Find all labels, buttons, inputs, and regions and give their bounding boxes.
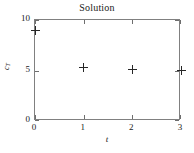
x-tick-mark <box>180 115 181 119</box>
data-point-marker <box>128 65 137 74</box>
x-tick-mark <box>84 115 85 119</box>
y-tick-mark <box>35 71 39 72</box>
y-tick-mark <box>175 20 179 21</box>
x-axis-label: t <box>34 134 180 144</box>
chart-figure: Solution 0123 0510 t cT <box>0 0 194 153</box>
y-axis-label-base: c <box>2 66 11 70</box>
plus-icon-vertical <box>35 26 36 35</box>
chart-title: Solution <box>0 2 194 13</box>
y-tick-mark <box>175 120 179 121</box>
plot-frame <box>34 19 180 120</box>
plus-icon-vertical <box>132 65 133 74</box>
x-tick-mark <box>132 20 133 24</box>
x-tick-mark <box>132 115 133 119</box>
x-tick-mark <box>180 20 181 24</box>
y-tick-mark <box>35 20 39 21</box>
plus-icon-vertical <box>83 63 84 72</box>
x-tick-label: 2 <box>123 122 139 132</box>
x-tick-mark <box>84 20 85 24</box>
plus-icon-vertical <box>181 66 182 75</box>
data-point-marker <box>177 66 186 75</box>
y-tick-label: 5 <box>10 64 30 74</box>
x-tick-mark <box>35 115 36 119</box>
x-tick-label: 3 <box>172 122 188 132</box>
y-axis-label: cT <box>2 52 11 82</box>
y-tick-label: 0 <box>10 114 30 124</box>
y-axis-label-subscript: T <box>5 63 11 66</box>
data-point-marker <box>79 63 88 72</box>
x-tick-label: 1 <box>75 122 91 132</box>
y-tick-mark <box>35 120 39 121</box>
y-tick-label: 10 <box>10 13 30 23</box>
data-point-marker <box>31 26 40 35</box>
